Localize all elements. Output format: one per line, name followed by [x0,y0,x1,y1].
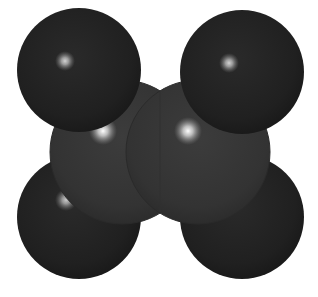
atom-h-top-right [180,10,304,134]
molecule-model-graphic [0,0,318,297]
atom-h-top-left [17,8,141,132]
molecule-figure: ethylene (C2H4) [0,0,318,297]
